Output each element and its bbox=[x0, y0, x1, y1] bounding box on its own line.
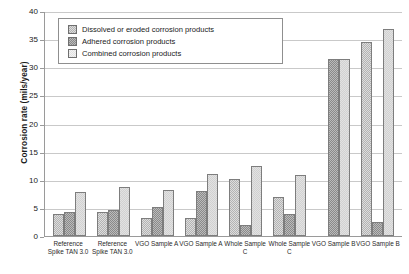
y-tick-mark bbox=[40, 181, 44, 182]
y-tick-mark bbox=[40, 40, 44, 41]
legend-swatch-icon bbox=[68, 37, 77, 46]
x-tick-label: Whole Sample C bbox=[223, 240, 267, 257]
bar bbox=[361, 42, 372, 236]
legend-swatch-icon bbox=[68, 49, 77, 58]
y-tick-label: 25 bbox=[14, 91, 38, 100]
y-tick-label: 5 bbox=[14, 204, 38, 213]
bar bbox=[75, 192, 86, 236]
bar bbox=[229, 179, 240, 236]
legend-item-label: Combined corrosion products bbox=[82, 49, 181, 58]
bar bbox=[119, 187, 130, 236]
bar-group bbox=[356, 12, 400, 236]
bar bbox=[372, 222, 383, 236]
bar bbox=[295, 175, 306, 236]
bar-group bbox=[312, 12, 356, 236]
bar bbox=[185, 218, 196, 236]
bar bbox=[383, 29, 394, 236]
bar bbox=[339, 59, 350, 236]
bar bbox=[108, 210, 119, 236]
x-tick-label: VGO Sample B bbox=[312, 240, 356, 257]
y-tick-mark bbox=[40, 68, 44, 69]
bar bbox=[273, 197, 284, 236]
bar bbox=[207, 174, 218, 236]
y-tick-mark bbox=[40, 153, 44, 154]
y-tick-mark bbox=[40, 125, 44, 126]
legend: Dissolved or eroded corrosion productsAd… bbox=[58, 18, 283, 64]
legend-item: Dissolved or eroded corrosion products bbox=[68, 23, 275, 35]
y-tick-mark bbox=[40, 96, 44, 97]
x-tick-label: Reference Spike TAN 3.0 bbox=[90, 240, 134, 257]
bar bbox=[196, 191, 207, 236]
x-tick-label: VGO Sample A bbox=[179, 240, 223, 257]
bar bbox=[163, 190, 174, 236]
bar bbox=[251, 166, 262, 236]
x-tick-label: Whole Sample C bbox=[267, 240, 311, 257]
y-tick-label: 10 bbox=[14, 176, 38, 185]
legend-item-label: Adhered corrosion products bbox=[82, 37, 175, 46]
y-tick-mark bbox=[40, 12, 44, 13]
legend-item: Combined corrosion products bbox=[68, 47, 275, 59]
y-tick-mark bbox=[40, 237, 44, 238]
y-tick-label: 40 bbox=[14, 7, 38, 16]
bar bbox=[141, 218, 152, 236]
bar bbox=[240, 225, 251, 236]
corrosion-rate-bar-chart: Corrosion rate (mils/year) 0510152025303… bbox=[0, 0, 409, 274]
y-tick-label: 30 bbox=[14, 63, 38, 72]
y-tick-mark bbox=[40, 209, 44, 210]
y-tick-label: 20 bbox=[14, 120, 38, 129]
x-tick-label: VGO Sample B bbox=[356, 240, 400, 257]
x-tick-label: VGO Sample A bbox=[135, 240, 179, 257]
x-tick-label: Reference Spike TAN 3.0 bbox=[46, 240, 90, 257]
bar bbox=[64, 212, 75, 236]
y-tick-label: 35 bbox=[14, 35, 38, 44]
bar bbox=[97, 212, 108, 236]
bar bbox=[328, 59, 339, 236]
legend-swatch-icon bbox=[68, 25, 77, 34]
legend-item: Adhered corrosion products bbox=[68, 35, 275, 47]
bar bbox=[284, 214, 295, 237]
legend-item-label: Dissolved or eroded corrosion products bbox=[82, 25, 214, 34]
y-tick-label: 0 bbox=[14, 232, 38, 241]
bar bbox=[152, 207, 163, 236]
bar bbox=[53, 214, 64, 236]
x-axis-labels: Reference Spike TAN 3.0Reference Spike T… bbox=[44, 240, 402, 257]
y-tick-label: 15 bbox=[14, 148, 38, 157]
y-axis-title: Corrosion rate (mils/year) bbox=[20, 33, 29, 193]
